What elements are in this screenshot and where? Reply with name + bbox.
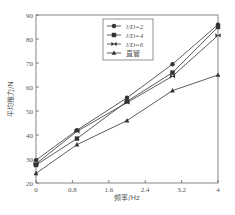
x-tick-label: 2.4 [141, 186, 150, 194]
diamond-marker [112, 24, 116, 28]
legend-label: l/D=6 [126, 41, 144, 49]
y-tick-label: 90 [26, 12, 34, 20]
square-marker [170, 70, 174, 74]
x-tick-label: 0.8 [68, 186, 77, 194]
y-tick-label: 60 [26, 84, 34, 92]
legend-label: l/D=2 [126, 23, 144, 31]
triangle-marker [216, 72, 221, 76]
y-tick-label: 50 [26, 108, 34, 116]
line-chart: 00.81.62.43.242030405060708090频率/Hz平均推力/… [0, 0, 235, 215]
x-axis-label: 频率/Hz [114, 193, 140, 202]
y-tick-label: 20 [26, 180, 34, 188]
triangle-marker [34, 171, 39, 175]
diamond-marker [170, 62, 174, 66]
y-tick-label: 70 [26, 60, 34, 68]
y-tick-label: 40 [26, 132, 34, 140]
x-tick-label: 4 [216, 186, 220, 194]
y-tick-label: 80 [26, 36, 34, 44]
y-axis-label: 平均推力/N [6, 81, 15, 117]
legend-label: l/D=4 [126, 32, 144, 40]
x-tick-label: 1.6 [104, 186, 113, 194]
y-tick-label: 30 [26, 156, 34, 164]
x-tick-label: 3.2 [177, 186, 186, 194]
x-tick-label: 0 [34, 186, 38, 194]
square-marker [75, 136, 79, 140]
legend: l/D=2l/D=4l/D=6直管 [103, 19, 153, 60]
series-3 [34, 72, 221, 175]
legend-label: 直管 [126, 49, 140, 58]
square-marker [112, 33, 116, 37]
triangle-marker [125, 118, 130, 122]
diamond-marker [34, 158, 38, 162]
series-line [36, 75, 218, 173]
square-marker [216, 25, 220, 29]
